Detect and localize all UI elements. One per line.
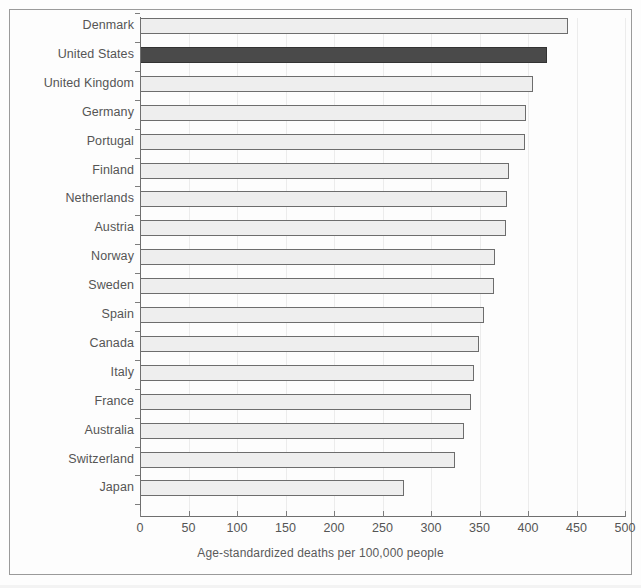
x-axis-tick <box>431 511 432 517</box>
y-axis-tick <box>135 186 140 187</box>
plot-area: DenmarkUnited StatesUnited KingdomGerman… <box>0 0 641 588</box>
y-axis-tick <box>135 504 140 505</box>
bar <box>140 365 474 381</box>
x-axis-title: Age-standardized deaths per 100,000 peop… <box>0 546 641 560</box>
y-axis-tick <box>135 302 140 303</box>
y-axis-tick <box>135 215 140 216</box>
category-label: Finland <box>6 164 134 177</box>
category-label: Norway <box>6 250 134 263</box>
bar <box>140 191 507 207</box>
y-axis-tick <box>135 447 140 448</box>
bar <box>140 278 494 294</box>
x-axis-tick <box>140 511 141 517</box>
x-axis-tick-label: 450 <box>554 521 600 535</box>
y-axis-tick <box>135 158 140 159</box>
x-axis-tick-label: 500 <box>602 521 641 535</box>
x-axis-tick-label: 350 <box>457 521 503 535</box>
bar <box>140 220 506 236</box>
bar <box>140 336 479 352</box>
x-axis-tick-label: 200 <box>311 521 357 535</box>
bar <box>140 307 484 323</box>
x-axis-tick <box>334 511 335 517</box>
category-label: Denmark <box>6 19 134 32</box>
bar <box>140 423 464 439</box>
x-axis-tick <box>480 511 481 517</box>
y-axis-tick <box>135 331 140 332</box>
category-label: Australia <box>6 424 134 437</box>
y-axis-tick <box>135 475 140 476</box>
bar-highlighted <box>140 47 547 63</box>
y-axis-tick <box>135 71 140 72</box>
x-axis-tick <box>528 511 529 517</box>
x-axis-tick-label: 400 <box>505 521 551 535</box>
y-axis-tick <box>135 100 140 101</box>
x-axis-tick-label: 150 <box>263 521 309 535</box>
x-axis-tick <box>286 511 287 517</box>
category-label: France <box>6 395 134 408</box>
bar <box>140 76 533 92</box>
bar <box>140 18 568 34</box>
category-label: United Kingdom <box>6 77 134 90</box>
bar-chart-figure: DenmarkUnited StatesUnited KingdomGerman… <box>0 0 641 588</box>
x-axis-tick-label: 300 <box>408 521 454 535</box>
category-label: Japan <box>6 481 134 494</box>
x-axis-tick-label: 100 <box>214 521 260 535</box>
bar <box>140 452 455 468</box>
bar <box>140 163 509 179</box>
x-axis-tick <box>237 511 238 517</box>
bar <box>140 480 404 496</box>
category-label: Portugal <box>6 135 134 148</box>
x-axis-tick-label: 0 <box>117 521 163 535</box>
category-label: Austria <box>6 221 134 234</box>
bar <box>140 394 471 410</box>
y-axis-line <box>140 17 141 517</box>
y-axis-tick <box>135 129 140 130</box>
x-axis-tick-label: 250 <box>360 521 406 535</box>
x-axis-tick <box>625 511 626 517</box>
category-label: Spain <box>6 308 134 321</box>
category-label: Canada <box>6 337 134 350</box>
y-axis-tick <box>135 244 140 245</box>
x-axis-tick <box>189 511 190 517</box>
bar <box>140 105 526 121</box>
bar <box>140 134 525 150</box>
bar <box>140 249 495 265</box>
category-label: Sweden <box>6 279 134 292</box>
category-label: Italy <box>6 366 134 379</box>
bar-series <box>140 18 630 510</box>
category-label: Switzerland <box>6 453 134 466</box>
x-axis-tick-label: 50 <box>166 521 212 535</box>
y-axis-tick <box>135 13 140 14</box>
y-axis-tick <box>135 42 140 43</box>
x-axis-tick <box>383 511 384 517</box>
category-axis-labels: DenmarkUnited StatesUnited KingdomGerman… <box>0 0 134 510</box>
category-label: Germany <box>6 106 134 119</box>
y-axis-tick <box>135 389 140 390</box>
category-label: United States <box>6 48 134 61</box>
y-axis-tick <box>135 273 140 274</box>
category-label: Netherlands <box>6 192 134 205</box>
x-axis-tick <box>577 511 578 517</box>
y-axis-tick <box>135 360 140 361</box>
y-axis-tick <box>135 418 140 419</box>
